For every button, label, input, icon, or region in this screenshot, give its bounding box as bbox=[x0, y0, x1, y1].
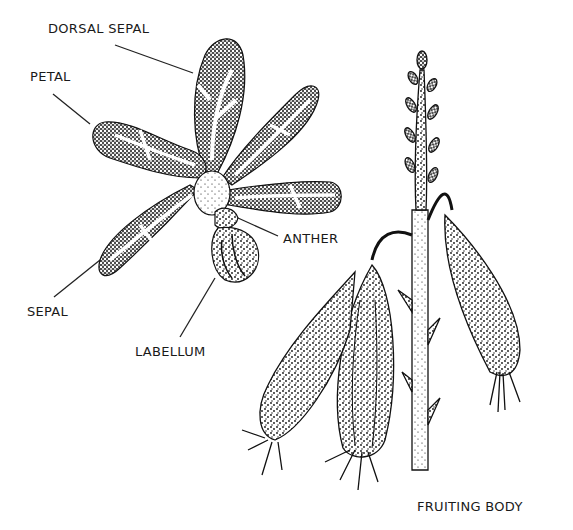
label-petal: PETAL bbox=[30, 70, 71, 83]
anther bbox=[215, 208, 238, 228]
label-fruiting-body: FRUITING BODY bbox=[417, 500, 523, 513]
right-capsule bbox=[445, 215, 520, 376]
label-anther: ANTHER bbox=[283, 232, 338, 245]
label-dorsal-sepal: DORSAL SEPAL bbox=[48, 22, 149, 35]
sepal-leader-line bbox=[54, 260, 100, 297]
label-sepal: SEPAL bbox=[27, 305, 68, 318]
petal-leader-line bbox=[53, 94, 90, 124]
inflorescence-tip bbox=[415, 70, 427, 210]
orchid-diagram: DORSAL SEPAL PETAL ANTHER SEPAL LABELLUM… bbox=[0, 0, 573, 530]
stem bbox=[412, 210, 428, 470]
dorsal-sepal-leader-line bbox=[115, 45, 193, 73]
illustration bbox=[0, 0, 573, 530]
labellum-leader-line bbox=[180, 278, 215, 337]
label-labellum: LABELLUM bbox=[135, 345, 206, 358]
